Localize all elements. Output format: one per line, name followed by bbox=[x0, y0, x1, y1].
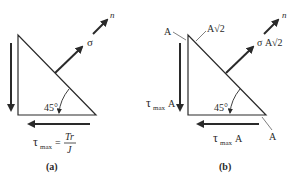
svg-text:max: max bbox=[153, 104, 166, 112]
svg-text:A: A bbox=[235, 133, 243, 144]
leader-hypotenuse bbox=[196, 31, 206, 41]
normal-label-a: n bbox=[110, 10, 115, 20]
tau-subscript-a: max bbox=[40, 143, 53, 151]
leader-bottom-face bbox=[262, 117, 272, 130]
angle-label-a: 45° bbox=[44, 102, 58, 113]
angle-arc-b bbox=[230, 89, 240, 113]
svg-text:A: A bbox=[168, 98, 176, 109]
area-label-bottom-face: A bbox=[269, 131, 277, 142]
shear-formula-a: τ max = Tr J bbox=[33, 131, 76, 155]
numerator-a: Tr bbox=[65, 131, 74, 142]
svg-text:max: max bbox=[220, 139, 233, 147]
svg-text:τ: τ bbox=[213, 131, 218, 145]
equals-sign-a: = bbox=[55, 137, 61, 148]
normal-force-arrow-b bbox=[226, 47, 253, 73]
panel-a: n σ 45° τ max = Tr J (a) bbox=[11, 10, 115, 173]
normal-label-b: n bbox=[282, 10, 287, 20]
stress-element-diagram: n σ 45° τ max = Tr J (a) n σ A√2 A A√2 bbox=[0, 0, 294, 182]
angle-arc-a bbox=[59, 89, 69, 113]
area-label-left-face: A bbox=[164, 26, 172, 37]
caption-b: (b) bbox=[219, 161, 231, 173]
normal-force-label-b: σ A√2 bbox=[257, 37, 283, 48]
normal-direction-arrow-a bbox=[93, 20, 107, 34]
leader-left-face bbox=[173, 32, 186, 40]
normal-stress-arrow-a bbox=[55, 47, 82, 73]
normal-direction-arrow-b bbox=[264, 20, 278, 34]
horizontal-shear-label-b: τ max A bbox=[213, 131, 243, 147]
angle-label-b: 45° bbox=[214, 102, 228, 113]
area-label-hypotenuse: A√2 bbox=[207, 23, 225, 34]
denominator-a: J bbox=[67, 144, 72, 155]
sigma-label-a: σ bbox=[87, 36, 93, 48]
tau-symbol-a: τ bbox=[33, 135, 38, 149]
panel-b: n σ A√2 A A√2 A 45° τ max A τ max A (b) bbox=[146, 10, 287, 173]
svg-text:τ: τ bbox=[146, 96, 151, 110]
caption-a: (a) bbox=[46, 161, 58, 173]
vertical-shear-label-b: τ max A bbox=[146, 96, 176, 112]
